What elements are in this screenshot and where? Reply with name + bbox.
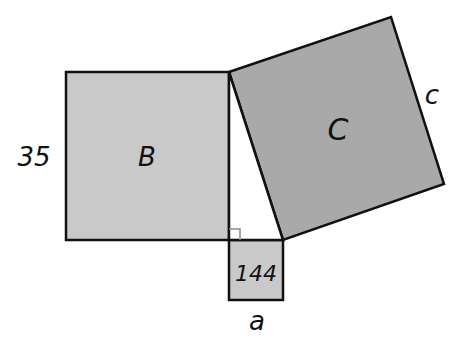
square-b-label: B bbox=[138, 142, 156, 172]
side-c-label: c bbox=[425, 80, 439, 110]
side-b-length-label: 35 bbox=[17, 142, 50, 172]
pythagorean-diagram: B 35 C c 144 a bbox=[0, 0, 460, 346]
side-a-label: a bbox=[249, 306, 265, 336]
square-a-area-label: 144 bbox=[235, 261, 277, 286]
square-c-label: C bbox=[328, 112, 349, 147]
